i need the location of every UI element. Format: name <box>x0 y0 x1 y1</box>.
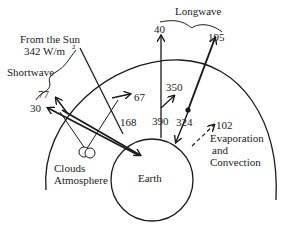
evap-value: 102 <box>216 120 233 131</box>
reflected-77-arrow <box>56 98 68 114</box>
lw-out-arrow <box>188 38 215 110</box>
energy-balance-diagram: From the Sun 342 W/m 2 Shortwave Longwav… <box>0 0 284 227</box>
sun-flux-sup: 2 <box>72 44 76 51</box>
clouds-label: Clouds <box>54 163 85 174</box>
atmosphere-label: Atmosphere <box>54 175 108 186</box>
absorbed-atmos-value: 67 <box>134 92 145 103</box>
lw-window-value: 40 <box>154 24 165 35</box>
sun-label: From the Sun <box>20 34 80 45</box>
lw-atmos-up-arrow <box>161 96 174 108</box>
sun-flux-label: 342 W/m <box>24 46 65 57</box>
reflected-30-value: 30 <box>30 103 41 114</box>
evap-label-2: and <box>212 145 228 156</box>
lw-out-value: 195 <box>208 32 225 43</box>
reflected-77-value: 77 <box>38 89 49 100</box>
longwave-label: Longwave <box>175 6 221 17</box>
evap-label-1: Evaporation <box>210 133 264 144</box>
absorbed-surface-value: 168 <box>120 117 137 128</box>
lw-atmos-up-value: 350 <box>166 82 183 93</box>
cloud-line-a <box>60 112 86 150</box>
absorbed-atmos-arrow <box>112 94 130 98</box>
lw-surface-value: 390 <box>152 116 169 127</box>
sun-incoming-line <box>80 48 123 134</box>
lw-dot <box>185 107 190 112</box>
evap-label-3: Convection <box>210 157 261 168</box>
lw-back-value: 324 <box>176 117 193 128</box>
earth-label: Earth <box>138 173 162 184</box>
shortwave-label: Shortwave <box>7 67 54 78</box>
